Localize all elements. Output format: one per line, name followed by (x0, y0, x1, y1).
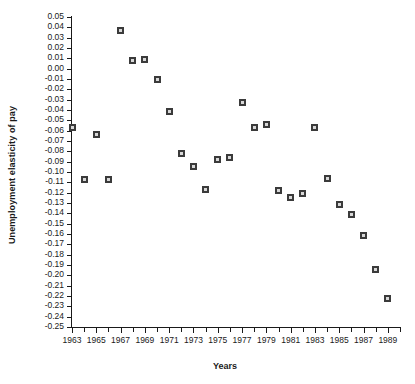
y-tick-label: -0.18 (45, 249, 64, 260)
data-point (154, 76, 161, 83)
data-point (129, 57, 136, 64)
data-point (214, 156, 221, 163)
data-point (251, 124, 258, 131)
x-tick-label: 1985 (330, 335, 349, 346)
x-tick-label: 1981 (281, 335, 300, 346)
x-tick (218, 328, 219, 333)
y-tick: -0.18 (67, 255, 72, 256)
x-tick-label: 1971 (160, 335, 179, 346)
x-tick-minor (351, 328, 352, 332)
x-tick-label: 1965 (87, 335, 106, 346)
x-tick-minor (133, 328, 134, 332)
data-point (275, 187, 282, 194)
y-tick: -0.05 (67, 120, 72, 121)
y-tick: -0.10 (67, 172, 72, 173)
y-tick-label: -0.09 (45, 156, 64, 167)
data-point (81, 176, 88, 183)
x-tick (169, 328, 170, 333)
y-tick: -0.22 (67, 296, 72, 297)
y-tick-label: -0.15 (45, 218, 64, 229)
x-tick (388, 328, 389, 333)
x-tick (72, 328, 73, 333)
data-point (117, 27, 124, 34)
x-tick-minor (157, 328, 158, 332)
y-tick: -0.08 (67, 151, 72, 152)
x-tick-label: 1977 (233, 335, 252, 346)
x-tick-minor (206, 328, 207, 332)
x-tick-label: 1969 (135, 335, 154, 346)
x-tick-minor (181, 328, 182, 332)
y-tick: -0.20 (67, 275, 72, 276)
y-tick: -0.07 (67, 141, 72, 142)
y-tick-label: -0.06 (45, 125, 64, 136)
data-point (372, 266, 379, 273)
y-tick-label: -0.25 (45, 321, 64, 332)
plot-area: 0.050.040.030.020.010.00-0.01-0.02-0.03-… (72, 17, 400, 327)
x-tick-minor (376, 328, 377, 332)
data-point (239, 99, 246, 106)
data-point (202, 186, 209, 193)
y-tick: 0.04 (67, 27, 72, 28)
data-point (178, 150, 185, 157)
x-tick-minor (84, 328, 85, 332)
y-tick: -0.16 (67, 234, 72, 235)
data-point (226, 154, 233, 161)
scatter-chart: Unemployment elasticity of pay 0.050.040… (0, 0, 415, 384)
x-tick (242, 328, 243, 333)
y-tick: -0.17 (67, 244, 72, 245)
x-tick-minor (230, 328, 231, 332)
x-tick (145, 328, 146, 333)
y-tick: 0.00 (67, 69, 72, 70)
x-tick-minor (254, 328, 255, 332)
x-tick (193, 328, 194, 333)
y-axis-title: Unemployment elasticity of pay (7, 75, 17, 275)
x-tick-label: 1983 (305, 335, 324, 346)
data-point (287, 194, 294, 201)
data-point (166, 108, 173, 115)
x-tick-label: 1967 (111, 335, 130, 346)
y-tick-label: -0.03 (45, 94, 64, 105)
y-tick: -0.01 (67, 79, 72, 80)
x-tick (291, 328, 292, 333)
x-tick-minor (327, 328, 328, 332)
x-tick-minor (400, 328, 401, 332)
y-tick: -0.15 (67, 224, 72, 225)
x-tick-label: 1963 (63, 335, 82, 346)
y-tick: -0.19 (67, 265, 72, 266)
data-point (348, 211, 355, 218)
data-point (190, 163, 197, 170)
y-tick: -0.09 (67, 162, 72, 163)
y-tick: -0.24 (67, 317, 72, 318)
y-tick: 0.01 (67, 58, 72, 59)
x-tick-label: 1973 (184, 335, 203, 346)
x-tick (266, 328, 267, 333)
data-point (299, 190, 306, 197)
x-tick (121, 328, 122, 333)
y-tick: -0.13 (67, 203, 72, 204)
y-tick: -0.21 (67, 286, 72, 287)
x-tick (315, 328, 316, 333)
data-point (336, 201, 343, 208)
data-point (263, 121, 270, 128)
x-tick-label: 1989 (378, 335, 397, 346)
y-tick: -0.12 (67, 193, 72, 194)
data-point (105, 176, 112, 183)
x-tick (339, 328, 340, 333)
x-tick-label: 1979 (257, 335, 276, 346)
x-tick-minor (303, 328, 304, 332)
x-tick-minor (279, 328, 280, 332)
data-point (69, 124, 76, 131)
data-point (141, 56, 148, 63)
y-tick: 0.05 (67, 17, 72, 18)
data-point (311, 124, 318, 131)
y-tick: 0.02 (67, 48, 72, 49)
x-tick (96, 328, 97, 333)
data-point (360, 232, 367, 239)
y-tick: 0.03 (67, 38, 72, 39)
x-tick-minor (108, 328, 109, 332)
y-tick-label: -0.12 (45, 187, 64, 198)
y-tick-label: -0.24 (45, 311, 64, 322)
data-point (93, 131, 100, 138)
y-tick-label: -0.21 (45, 280, 64, 291)
y-tick: -0.04 (67, 110, 72, 111)
